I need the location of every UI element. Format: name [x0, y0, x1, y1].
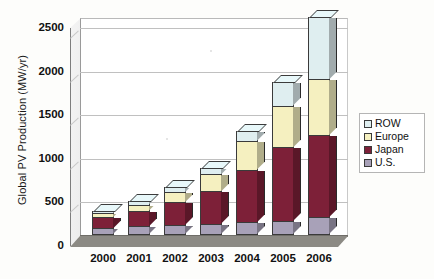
y-tick-label: 0 [24, 239, 64, 251]
bar-segment-us [92, 228, 114, 235]
legend-swatch [364, 159, 372, 167]
y-tick-label: 2000 [24, 65, 64, 77]
y-tick-label: 2500 [24, 21, 64, 33]
bar-column [236, 131, 258, 235]
plot-area [70, 18, 348, 246]
y-axis-tick-labels: 05001000150020002500 [22, 0, 64, 279]
scan-speck [210, 50, 212, 52]
bar-segment-japan [236, 170, 258, 223]
bar-segment-side [329, 18, 337, 79]
y-tick-label: 1000 [24, 152, 64, 164]
y-axis-line [70, 28, 71, 246]
bar-segment-japan [272, 147, 294, 221]
bar-column [92, 211, 114, 235]
bar-segment-row [308, 17, 330, 79]
legend-swatch [364, 120, 372, 128]
scan-speck [166, 138, 168, 140]
bar-column [272, 82, 294, 235]
bar-segment-japan [164, 202, 186, 225]
x-axis-tick-labels: 2000200120022003200420052006 [70, 252, 360, 272]
plot-floor [70, 236, 348, 247]
pv-production-chart: Global PV Production (MW/yr) 05001000150… [0, 0, 434, 279]
legend-label: U.S. [375, 157, 395, 168]
bar-segment-japan [200, 191, 222, 223]
bar-segment-side [329, 136, 337, 217]
y-tick-label: 500 [24, 195, 64, 207]
bar-column [128, 201, 150, 235]
legend-label: ROW [375, 118, 401, 129]
bar-segment-us [200, 224, 222, 235]
bar-segment-europe [272, 106, 294, 148]
bar-segment-japan [92, 217, 114, 228]
bar-column [200, 168, 222, 235]
legend-item: ROW [364, 118, 420, 129]
bar-segment-side [257, 171, 265, 223]
legend-item: Europe [364, 131, 420, 142]
bar-segment-europe [308, 79, 330, 135]
legend-item: U.S. [364, 157, 420, 168]
legend-item: Japan [364, 144, 420, 155]
bar-segment-us [272, 221, 294, 235]
y-tick-label: 1500 [24, 108, 64, 120]
bar-column [164, 187, 186, 235]
bar-segment-us [128, 226, 150, 235]
legend-label: Japan [375, 144, 404, 155]
bar-segment-japan [128, 211, 150, 227]
bar-segment-side [329, 80, 337, 135]
legend-label: Europe [375, 131, 409, 142]
chart-legend: ROWEuropeJapanU.S. [359, 113, 425, 173]
bar-segment-row [236, 131, 258, 141]
bar-top-cap [309, 10, 339, 18]
bar-segment-europe [200, 174, 222, 191]
legend-swatch [364, 133, 372, 141]
bar-segment-row [272, 82, 294, 105]
x-tick-label: 2006 [298, 252, 340, 264]
bar-column [308, 17, 330, 235]
bar-segment-japan [308, 135, 330, 217]
bar-segment-side [293, 148, 301, 221]
legend-swatch [364, 146, 372, 154]
bar-segment-us [164, 225, 186, 235]
bar-segment-europe [236, 141, 258, 170]
bar-segment-europe [164, 192, 186, 202]
bar-segment-us [308, 217, 330, 235]
bar-segment-us [236, 222, 258, 235]
